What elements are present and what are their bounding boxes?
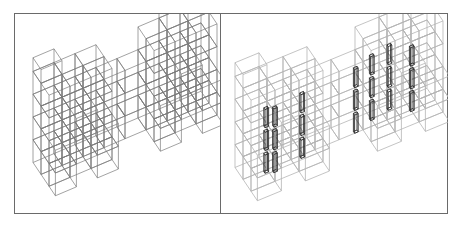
building-wireframe-left <box>15 14 220 213</box>
wireframe-panel-right <box>221 14 448 213</box>
figure-frame <box>14 13 448 214</box>
building-wireframe-right <box>221 14 448 213</box>
wireframe-panel-left <box>15 14 220 213</box>
